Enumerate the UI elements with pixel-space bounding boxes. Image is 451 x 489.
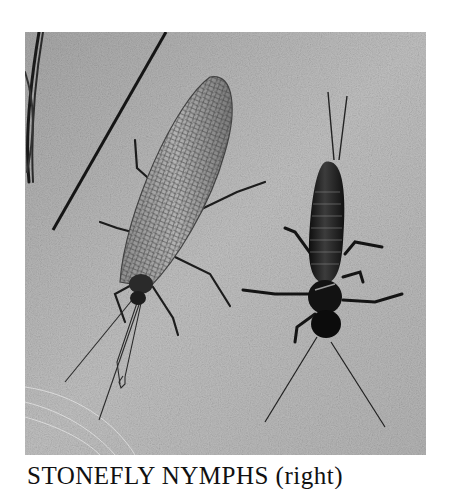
figure-caption: STONEFLY NYMPHS (right) bbox=[27, 463, 343, 488]
stonefly-photograph bbox=[25, 32, 426, 455]
